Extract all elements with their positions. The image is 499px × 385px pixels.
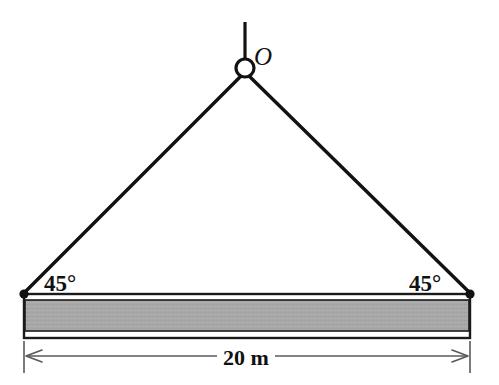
- angle-label-left: 45°: [44, 272, 76, 295]
- beam-core-band: [25, 300, 469, 331]
- support-node-right: [465, 289, 474, 298]
- diagram-canvas: 45° 45° O 20 m: [0, 0, 499, 385]
- ring-icon: [236, 59, 254, 77]
- diagram-svg: [0, 0, 499, 385]
- dimension-label: 20 m: [217, 347, 275, 369]
- cable-left: [24, 72, 245, 293]
- angle-label-right: 45°: [409, 272, 441, 295]
- support-node-left: [19, 289, 28, 298]
- cable-right: [245, 72, 470, 293]
- apex-point-label: O: [254, 44, 272, 69]
